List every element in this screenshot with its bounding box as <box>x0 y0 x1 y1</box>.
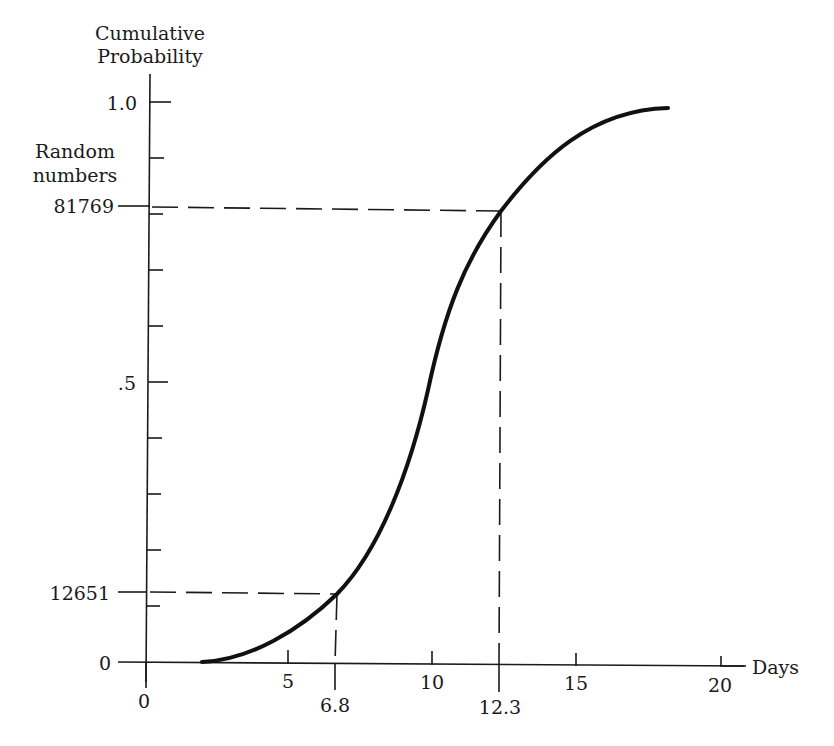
x-annotation-12-3: 12.3 <box>479 696 521 718</box>
x-tick-label-10: 10 <box>420 671 444 693</box>
random-number-12651: 12651 <box>50 582 110 604</box>
cdf-chart: Cumulative Probability Random numbers 1.… <box>0 0 834 746</box>
x-tick-label-20: 20 <box>708 674 732 696</box>
random-numbers-label-line1: Random <box>35 140 115 162</box>
guide-12651-horizontal <box>150 592 337 594</box>
y-tick-label-1: 1.0 <box>107 92 137 114</box>
guide-81769-vertical <box>499 211 501 664</box>
y-ticks <box>118 102 171 606</box>
cdf-curve <box>202 108 668 662</box>
x-annotation-6-8: 6.8 <box>320 694 350 716</box>
y-tick-label-0-5: .5 <box>118 372 136 394</box>
x-tick-label-5: 5 <box>282 670 294 692</box>
guide-12651-vertical <box>335 594 337 664</box>
dashed-guides <box>150 207 501 664</box>
y-axis-title-line1: Cumulative <box>95 22 205 44</box>
guide-81769-horizontal <box>152 207 501 211</box>
y-tick-label-0: 0 <box>99 652 111 674</box>
y-axis <box>146 74 150 682</box>
random-number-81769: 81769 <box>54 195 114 217</box>
x-axis-title: Days <box>752 656 799 678</box>
x-tick-label-15: 15 <box>564 672 588 694</box>
random-numbers-label-line2: numbers <box>33 164 118 186</box>
x-tick-label-0: 0 <box>138 690 150 712</box>
y-axis-title-line2: Probability <box>97 45 203 67</box>
